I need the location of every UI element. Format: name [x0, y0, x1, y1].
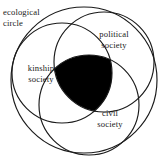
- label-political-society: political society: [87, 29, 141, 51]
- label-kinship-society: kinship society: [14, 63, 68, 85]
- label-civil-society: civil society: [84, 108, 136, 130]
- label-ecological-circle: ecological circle: [3, 7, 65, 29]
- venn-diagram: ecological circle political society kins…: [0, 0, 166, 161]
